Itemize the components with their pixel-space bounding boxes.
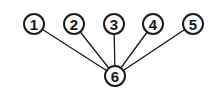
node-6: 6 — [105, 66, 125, 86]
nodes-group: 123456 — [24, 14, 203, 86]
node-2: 2 — [64, 14, 84, 34]
node-label: 1 — [30, 16, 38, 33]
node-label: 2 — [70, 16, 78, 33]
node-5: 5 — [183, 14, 203, 34]
star-graph-diagram: 123456 — [0, 0, 218, 91]
node-1: 1 — [24, 14, 44, 34]
node-label: 4 — [149, 16, 158, 33]
node-3: 3 — [104, 14, 124, 34]
node-4: 4 — [143, 14, 163, 34]
node-label: 6 — [111, 68, 119, 85]
node-label: 3 — [110, 16, 118, 33]
node-label: 5 — [189, 16, 197, 33]
